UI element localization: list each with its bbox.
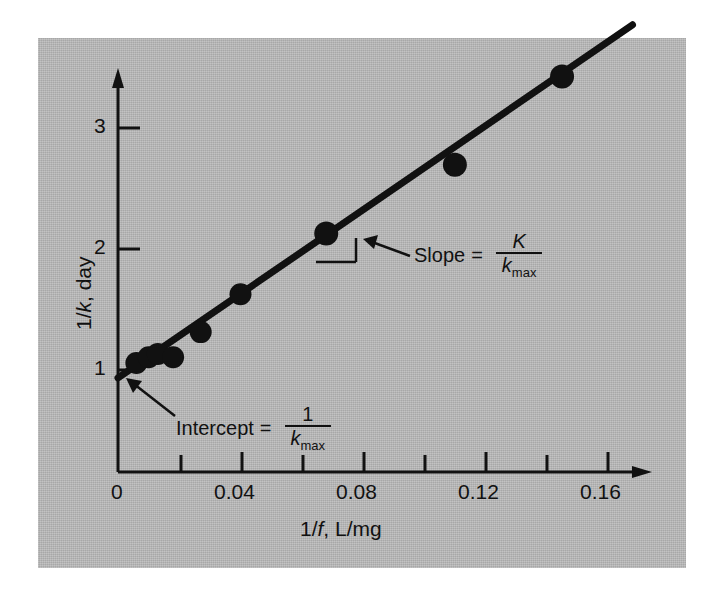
x-axis-title: 1/f, L/mg	[300, 517, 382, 541]
data-point	[443, 153, 467, 177]
figure-root: 3 2 1 0 0.04 0.08 0.12 0.16 1/f, L/mg 1/…	[0, 0, 703, 597]
slope-annotation-equals: =	[471, 244, 483, 267]
x-axis-arrowhead	[632, 466, 652, 478]
slope-annotation: Slope = K kmax	[414, 231, 542, 280]
data-point	[550, 64, 574, 88]
intercept-annotation-equals: =	[260, 417, 272, 440]
slope-annotation-fraction: K kmax	[496, 231, 543, 280]
slope-denominator-subscript: max	[512, 265, 537, 280]
y-tick-label-2: 2	[94, 235, 106, 259]
intercept-annotation-numerator: 1	[296, 404, 319, 425]
x-tick-label-0.12: 0.12	[458, 480, 499, 504]
data-point	[190, 321, 212, 343]
intercept-denominator-base: k	[291, 427, 301, 449]
data-point	[230, 283, 252, 305]
y-axis-title-italic: k	[72, 302, 95, 313]
intercept-leader-arrowhead	[126, 378, 142, 393]
data-point	[162, 346, 184, 368]
slope-leader-arrow	[372, 242, 410, 256]
y-axis-title-prefix: 1/	[72, 312, 95, 330]
y-tick-label-3: 3	[94, 114, 106, 138]
x-tick-label-0.08: 0.08	[336, 480, 377, 504]
plot-canvas	[0, 0, 703, 597]
intercept-leader-arrow	[134, 384, 175, 416]
y-axis-arrowhead	[112, 68, 124, 88]
intercept-annotation-denominator: kmax	[285, 425, 332, 452]
x-axis-title-suffix: , L/mg	[323, 517, 381, 540]
slope-annotation-label: Slope	[414, 244, 465, 267]
data-point	[314, 221, 338, 245]
intercept-annotation: Intercept = 1 kmax	[176, 404, 331, 453]
intercept-denominator-subscript: max	[301, 438, 326, 453]
y-major-ticks	[118, 128, 140, 370]
intercept-annotation-fraction: 1 kmax	[285, 404, 332, 453]
slope-denominator-base: k	[502, 254, 512, 276]
y-axis-title: 1/k, day	[72, 256, 96, 330]
x-axis-title-prefix: 1/	[300, 517, 318, 540]
x-tick-label-0.16: 0.16	[580, 480, 621, 504]
slope-annotation-numerator: K	[506, 231, 531, 252]
y-axis-title-suffix: , day	[72, 256, 95, 302]
slope-annotation-denominator: kmax	[496, 252, 543, 279]
x-tick-label-0: 0	[111, 480, 123, 504]
y-tick-label-1: 1	[94, 356, 106, 380]
intercept-annotation-label: Intercept	[176, 417, 254, 440]
x-tick-label-0.04: 0.04	[214, 480, 255, 504]
slope-leader-arrowhead	[363, 235, 378, 249]
